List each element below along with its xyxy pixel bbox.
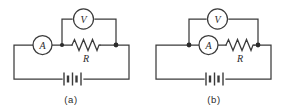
- ammeter-label-a: A: [38, 40, 46, 51]
- ammeter-label-b: A: [204, 40, 212, 51]
- battery-a: [64, 73, 81, 86]
- resistor-label-a: R: [82, 53, 89, 64]
- circuit-panel-b: A R V (b): [144, 0, 287, 110]
- caption-a: (a): [64, 94, 77, 105]
- resistor-zigzag-b: [226, 40, 254, 51]
- resistor-label-b: R: [236, 53, 243, 64]
- wire-outer-loop-a: [14, 45, 129, 79]
- circuit-panel-a: R A V (a): [0, 0, 143, 110]
- figure-root: R A V (a): [0, 0, 287, 110]
- circuit-diagram-b: A R V (b): [144, 0, 287, 110]
- circuit-diagram-a: R A V (a): [0, 0, 143, 110]
- junction-node-right-b: [256, 43, 261, 48]
- junction-node-left-b: [187, 43, 192, 48]
- junction-node-right-a: [114, 43, 119, 48]
- junction-node-left-a: [60, 43, 64, 47]
- battery-b: [206, 73, 223, 86]
- caption-b: (b): [207, 94, 220, 105]
- resistor-zigzag-a: [72, 40, 100, 51]
